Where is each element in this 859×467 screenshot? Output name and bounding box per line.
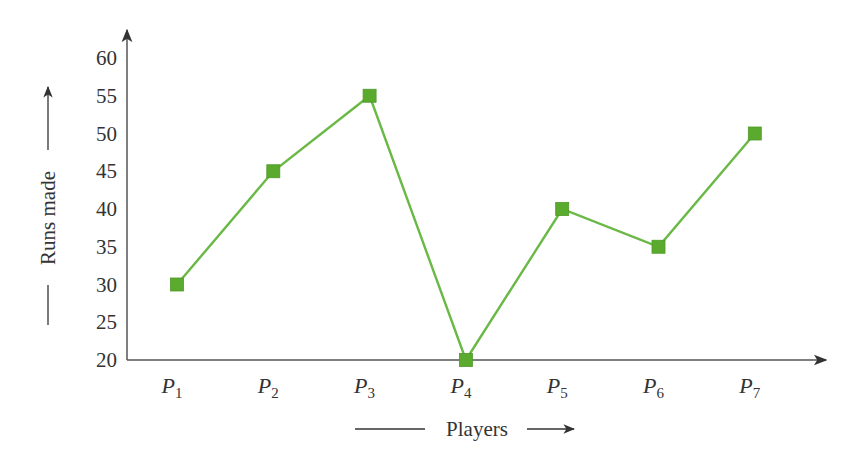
x-tick-label: P7 (738, 373, 760, 401)
data-point-marker (652, 240, 665, 253)
data-point-marker (459, 354, 472, 367)
x-tick-label: P1 (161, 373, 183, 401)
y-tick-label: 45 (96, 159, 117, 183)
x-axis-title: Players (446, 417, 508, 441)
y-tick-label: 60 (96, 46, 117, 70)
data-point-marker (267, 165, 280, 178)
x-tick-label: P3 (353, 373, 375, 401)
y-tick-label: 35 (96, 235, 117, 259)
series-markers (171, 89, 762, 366)
x-axis-title-group: Players (355, 417, 574, 441)
y-tick-label: 20 (96, 348, 117, 372)
y-tick-label: 40 (96, 197, 117, 221)
y-tick-label: 25 (96, 310, 117, 334)
data-point-marker (748, 127, 761, 140)
line-chart: 202530354045505560 P1P2P3P4P5P6P7 Player… (0, 0, 859, 467)
y-tick-label: 55 (96, 84, 117, 108)
y-tick-label: 50 (96, 122, 117, 146)
x-tick-label: P4 (449, 373, 471, 401)
y-tick-labels: 202530354045505560 (96, 46, 117, 372)
x-tick-label: P2 (257, 373, 279, 401)
x-tick-labels: P1P2P3P4P5P6P7 (161, 373, 761, 401)
data-point-marker (363, 89, 376, 102)
data-point-marker (171, 278, 184, 291)
x-tick-label: P5 (546, 373, 568, 401)
y-axis-title-group: Runs made (36, 87, 60, 325)
y-tick-label: 30 (96, 273, 117, 297)
data-point-marker (556, 203, 569, 216)
y-axis-title: Runs made (36, 171, 60, 265)
x-tick-label: P6 (642, 373, 664, 401)
series-line (177, 96, 755, 360)
